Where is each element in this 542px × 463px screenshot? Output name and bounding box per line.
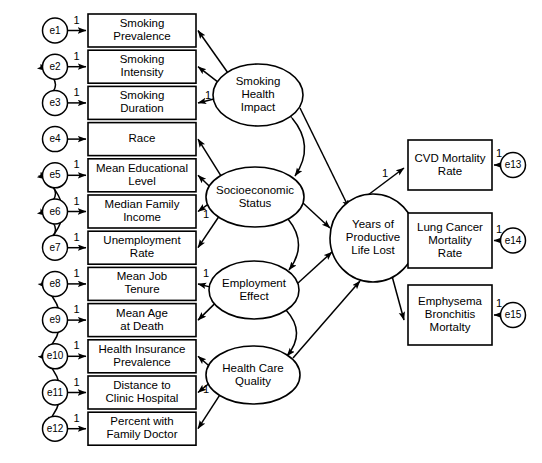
loading-socioeconomic-status-to-mean-educational-level (198, 175, 210, 186)
error-label-e8: e8 (49, 278, 61, 289)
error-label-e4: e4 (49, 133, 61, 144)
fixed-label-e11: 1 (73, 375, 79, 387)
loading-health-care-quality-to-percent-with-family-doctor (198, 395, 220, 429)
error-label-e12: e12 (47, 422, 64, 433)
error-label-e6: e6 (49, 205, 61, 216)
loading-health-care-quality-to-health-insurance-prevalence (198, 356, 209, 365)
error-label-e11: e11 (47, 386, 63, 397)
loading-smoking-health-impact-to-smoking-prevalence (198, 31, 228, 73)
fixed-loading-smoking-health-impact: 1 (205, 89, 211, 101)
latent-label-years-of-productive-life-lost: Years ofProductiveLife Lost (346, 218, 400, 256)
fixed-label-e10: 1 (73, 339, 79, 351)
error-label-e13: e13 (505, 159, 522, 170)
loading-socioeconomic-status-to-race (198, 139, 221, 176)
covariance-socioeconomic-status-employment-effect (288, 219, 299, 270)
indicator-label-mean-age-at-death: Mean Ageat Death (116, 307, 168, 332)
loading-smoking-health-impact-to-smoking-intensity (198, 67, 218, 82)
sem-path-diagram: 1111111111111111111SmokingPrevalenceSmok… (0, 0, 542, 463)
loading-employment-effect-to-mean-job-tenure (198, 284, 210, 287)
fixed-label-e13: 1 (496, 147, 502, 159)
error-label-e9: e9 (49, 314, 61, 325)
indicator-label-race: Race (129, 132, 156, 144)
fixed-loading-employment-effect: 1 (203, 267, 209, 279)
fixed-label-e12: 1 (73, 412, 79, 424)
covariance-smoking-health-impact-socioeconomic-status (292, 118, 305, 176)
fixed-label-e14: 1 (496, 222, 502, 234)
fixed-label-e8: 1 (73, 267, 79, 279)
fixed-label-e2: 1 (73, 50, 79, 62)
error-label-e5: e5 (49, 169, 61, 180)
structural-path-socioeconomic-status-to-ypll (303, 203, 330, 228)
fixed-label-e15: 1 (496, 297, 502, 309)
fixed-label-e7: 1 (73, 231, 79, 243)
fixed-label-e5: 1 (73, 158, 79, 170)
indicator-label-smoking-prevalence: SmokingPrevalence (113, 17, 171, 42)
error-label-e3: e3 (49, 97, 61, 108)
structural-path-employment-effect-to-ypll (298, 252, 332, 283)
error-label-e14: e14 (505, 234, 522, 245)
fixed-label-e3: 1 (73, 86, 79, 98)
error-label-e7: e7 (49, 241, 61, 252)
error-label-e2: e2 (49, 60, 61, 71)
covariance-employment-effect-health-care-quality (286, 310, 297, 356)
latent-label-smoking-health-impact: SmokingHealthImpact (236, 75, 281, 113)
error-label-e1: e1 (49, 24, 61, 35)
fixed-loading-health-care-quality: 1 (203, 383, 209, 395)
indicator-label-percent-with-family-doctor: Percent withFamily Doctor (107, 415, 178, 440)
loading-employment-effect-to-mean-age-at-death (198, 304, 215, 321)
structural-path-ypll-to-emphysema-bronchitis-mortalty (392, 276, 404, 320)
fixed-label-e1: 1 (73, 13, 79, 25)
fixed-loading-socioeconomic-status: 1 (203, 208, 209, 220)
indicator-label-smoking-duration: SmokingDuration (120, 89, 165, 114)
structural-path-health-care-quality-to-ypll (293, 281, 360, 358)
diagram-canvas: 1111111111111111111SmokingPrevalenceSmok… (0, 0, 542, 463)
error-label-e10: e10 (47, 350, 64, 361)
error-label-e15: e15 (505, 309, 522, 320)
loading-socioeconomic-status-to-unemployment-rate (198, 217, 219, 248)
structural-path-smoking-health-impact-to-ypll (300, 108, 349, 208)
indicator-label-smoking-intensity: SmokingIntensity (120, 53, 165, 78)
fixed-path-ypll-cvd-mortality-rate: 1 (382, 167, 388, 179)
indicator-label-distance-to-clinic-hospital: Distance toClinic Hospital (106, 379, 179, 404)
fixed-label-e9: 1 (73, 303, 79, 315)
fixed-label-e6: 1 (73, 194, 79, 206)
